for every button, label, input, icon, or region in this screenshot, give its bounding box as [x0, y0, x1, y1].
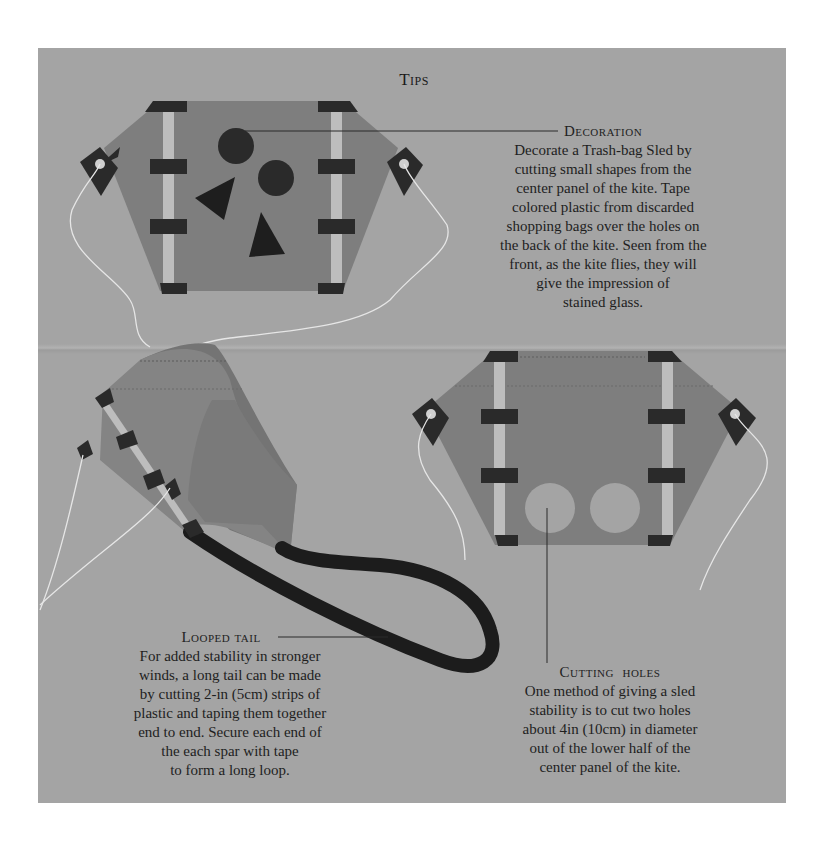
decoration-line: center panel of the kite. Tape	[500, 179, 706, 198]
cutting-holes-kite-illustration	[412, 351, 767, 663]
cutting-holes-line: One method of giving a sled	[505, 682, 715, 701]
cutting-holes-line: about 4in (10cm) in diameter	[505, 720, 715, 739]
decoration-line: give the impression of	[500, 274, 706, 293]
decoration-section: Decoration Decorate a Trash-bag Sled by …	[500, 122, 706, 312]
decoration-heading: Decoration	[500, 122, 706, 141]
looped-tail-line: end to end. Secure each end of	[120, 723, 340, 742]
looped-tail-line: by cutting 2-in (5cm) strips of	[120, 685, 340, 704]
decoration-line: front, as the kite flies, they will	[500, 255, 706, 274]
decorated-kite-illustration	[70, 101, 558, 350]
looped-tail-kite-illustration	[40, 343, 493, 666]
cutting-holes-line: center panel of the kite.	[505, 758, 715, 777]
looped-tail-line: the each spar with tape	[120, 742, 340, 761]
looped-tail-line: For added stability in stronger	[120, 647, 340, 666]
decoration-line: colored plastic from discarded	[500, 198, 706, 217]
cutting-holes-heading: Cutting holes	[505, 663, 715, 682]
decoration-line: stained glass.	[500, 293, 706, 312]
decoration-line: the back of the kite. Seen from the	[500, 236, 706, 255]
looped-tail-heading: Looped tail	[102, 628, 340, 647]
decoration-line: Decorate a Trash-bag Sled by	[500, 141, 706, 160]
looped-tail-line: winds, a long tail can be made	[120, 666, 340, 685]
looped-tail-line: to form a long loop.	[120, 761, 340, 780]
looped-tail-line: plastic and taping them together	[120, 704, 340, 723]
cutting-holes-line: out of the lower half of the	[505, 739, 715, 758]
page-title: Tips	[0, 70, 828, 90]
cutting-holes-section: Cutting holes One method of giving a sle…	[505, 663, 715, 777]
cutting-holes-line: stability is to cut two holes	[505, 701, 715, 720]
looped-tail-section: Looped tail For added stability in stron…	[120, 628, 340, 780]
decoration-line: cutting small shapes from the	[500, 160, 706, 179]
decoration-line: shopping bags over the holes on	[500, 217, 706, 236]
